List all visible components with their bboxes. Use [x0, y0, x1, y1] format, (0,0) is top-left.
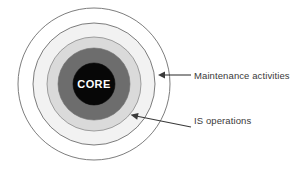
callout-arrow-maintenance: [158, 72, 191, 79]
callout-label-maintenance-activities: Maintenance activities: [194, 70, 290, 81]
callout-label-is-operations: IS operations: [194, 115, 251, 126]
diagram-canvas: CORE Maintenance activities IS operation…: [0, 0, 305, 169]
concentric-circles-diagram: CORE: [0, 0, 305, 169]
core-label: CORE: [77, 78, 110, 90]
